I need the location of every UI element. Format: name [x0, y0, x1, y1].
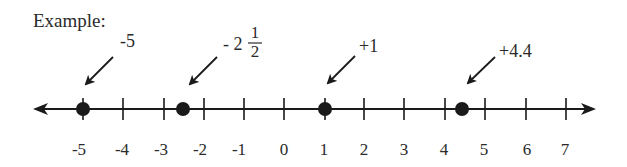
tick-label: 1	[320, 140, 329, 159]
fraction-numerator: 1	[251, 23, 260, 42]
mixed-number-whole: - 2	[223, 34, 243, 54]
tick-label: 6	[523, 140, 532, 159]
annotation-arrow-icon	[468, 57, 495, 83]
tick-label: -1	[232, 140, 246, 159]
tick-label: 7	[561, 140, 570, 159]
tick-label: 3	[400, 140, 409, 159]
annotation-label-pos1: +1	[359, 36, 378, 56]
number-line-diagram: Example: -5 -4 -3 -2 -1 0	[0, 0, 627, 167]
tick-label: -4	[115, 140, 130, 159]
number-line-figure: Example: -5 -4 -3 -2 -1 0	[0, 0, 627, 167]
annotation-arrow-icon	[190, 57, 217, 84]
tick-label: -5	[72, 140, 86, 159]
annotation-label-pos4-4: +4.4	[499, 41, 532, 61]
tick-label: 4	[440, 140, 449, 159]
annotation-label-neg5: -5	[120, 31, 135, 51]
point-neg2-and-a-half	[176, 102, 190, 116]
fraction-denominator: 2	[251, 42, 260, 61]
annotation-arrow-icon	[86, 57, 113, 84]
tick-labels: -5 -4 -3 -2 -1 0 1 2 3 4 5 6 7	[72, 140, 570, 159]
tick-label: 5	[480, 140, 489, 159]
tick-label: -2	[193, 140, 207, 159]
tick-label: 0	[280, 140, 289, 159]
annotation-label-neg2-and-a-half: - 2 1 2	[223, 23, 262, 61]
point-neg5	[76, 102, 90, 116]
tick-label: 2	[360, 140, 369, 159]
annotation-arrow-icon	[328, 56, 355, 83]
point-pos1	[318, 102, 332, 116]
point-pos4-4	[455, 102, 469, 116]
example-title: Example:	[33, 10, 106, 31]
tick-label: -3	[154, 140, 168, 159]
